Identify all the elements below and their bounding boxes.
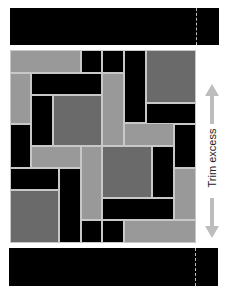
bottom-cut-line [195, 248, 196, 286]
arrow-down-icon [205, 198, 219, 238]
quilt-block [124, 220, 196, 243]
quilt-block [81, 146, 102, 220]
quilt-block [124, 123, 174, 146]
quilt-block [31, 95, 53, 146]
quilt-block [124, 50, 146, 123]
quilt-block [81, 220, 102, 243]
quilt-block [10, 50, 81, 73]
quilt-block [174, 168, 196, 220]
quilt-block [146, 50, 196, 103]
quilt-block [10, 190, 59, 243]
quilt-block [10, 124, 31, 168]
quilt-block [53, 95, 102, 146]
quilt-block [174, 124, 196, 168]
quilt-block [31, 73, 102, 95]
quilt-block [10, 73, 31, 124]
quilt-grid [10, 50, 196, 243]
quilt-block [102, 73, 124, 146]
top-cut-line [196, 8, 197, 45]
top-trim-strip [10, 8, 219, 45]
quilt-block [102, 146, 152, 198]
quilt-block [146, 103, 196, 124]
trim-label-group: Trim excess [200, 100, 224, 220]
quilt-block [59, 168, 81, 243]
quilt-block [81, 50, 102, 73]
quilt-block [102, 50, 124, 73]
quilt-block [31, 146, 81, 168]
bottom-trim-strip [9, 248, 218, 286]
quilt-block [102, 198, 174, 220]
quilt-block [102, 220, 124, 243]
quilt-block [152, 146, 174, 198]
quilt-block [10, 168, 59, 190]
trim-excess-label: Trim excess [206, 108, 218, 208]
